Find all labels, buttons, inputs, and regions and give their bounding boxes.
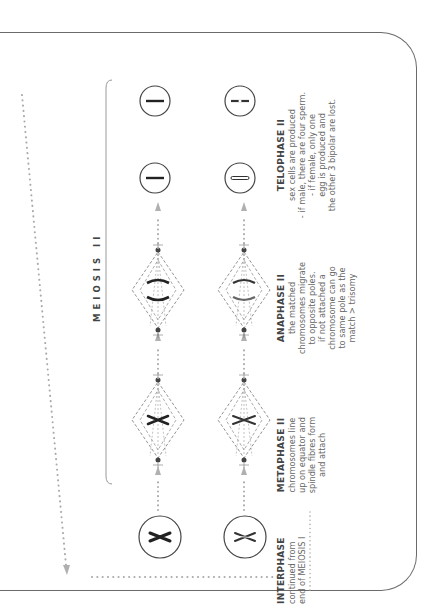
phase-line: the other 3 bipolar are lost.: [327, 90, 337, 220]
phase-line: up on equator and: [297, 405, 307, 505]
phase-line: continued from: [287, 528, 297, 604]
phase-heading: ANAPHASE II: [276, 258, 287, 358]
phase-line: chromosomes line: [287, 405, 297, 505]
phase-anaphase: ANAPHASE II the matched chromosomes migr…: [276, 258, 357, 358]
phase-line: spindle fibres form: [307, 405, 317, 505]
meiosis-title: MEIOSIS II: [92, 233, 102, 322]
meiosis-bracket: [106, 80, 112, 484]
phase-heading: METAPHASE II: [276, 405, 287, 505]
phase-line: egg is produced and: [317, 90, 327, 220]
phase-line: and attach: [317, 405, 327, 505]
column-2: [218, 86, 270, 558]
phase-line: chromosome can go: [327, 258, 337, 358]
phase-line: - if female, only one: [307, 90, 317, 220]
column-1: [132, 86, 184, 558]
phase-metaphase: METAPHASE II chromosomes line up on equa…: [276, 405, 327, 505]
phase-line: - if male, there are four sperm.: [297, 90, 307, 220]
phase-telophase: TELOPHASE II sex cells are produced - if…: [276, 90, 337, 220]
phase-heading: INTERPHASE: [276, 528, 287, 604]
phase-line: end of MEIOSIS I: [297, 528, 307, 604]
phase-line: if not attached a: [317, 258, 327, 358]
phase-line: to same pole as the: [337, 258, 347, 358]
phase-line: the matched: [287, 258, 297, 358]
phase-line: chromosomes migrate: [297, 258, 307, 358]
phase-line: sex cells are produced: [287, 90, 297, 220]
phase-heading: TELOPHASE II: [276, 90, 287, 220]
diagram-graphics: [0, 0, 444, 606]
phase-line: to opposite poles.: [307, 258, 317, 358]
phase-interphase: INTERPHASE continued from end of MEIOSIS…: [276, 528, 307, 604]
phase-line: match > trisomy: [347, 258, 357, 358]
